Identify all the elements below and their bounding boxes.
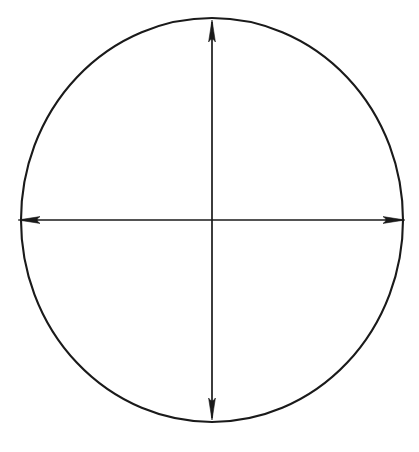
figure-canvas	[0, 0, 419, 452]
figure-background	[0, 0, 419, 452]
